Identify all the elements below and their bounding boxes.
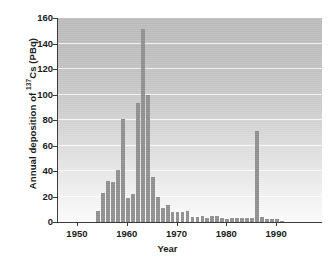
- bar: [230, 218, 234, 222]
- x-tick-mark: [276, 222, 277, 226]
- x-tick-label: 1950: [57, 228, 97, 239]
- bar: [280, 221, 284, 222]
- bar: [191, 217, 195, 222]
- gridline: [58, 43, 322, 44]
- y-tick-label: 100: [13, 89, 53, 100]
- x-tick-mark: [177, 222, 178, 226]
- bar: [205, 218, 209, 222]
- x-tick-label: 1980: [206, 228, 246, 239]
- x-tick-label: 1960: [107, 228, 147, 239]
- bar: [181, 212, 185, 222]
- y-tick-label: 120: [13, 63, 53, 74]
- bar: [215, 216, 219, 222]
- bar: [171, 212, 175, 222]
- bar: [265, 219, 269, 222]
- bar: [240, 218, 244, 222]
- x-tick-label: 1970: [157, 228, 197, 239]
- bar: [210, 216, 214, 222]
- plot-area: [57, 18, 322, 223]
- x-tick-label: 1990: [256, 228, 296, 239]
- y-tick-label: 20: [13, 191, 53, 202]
- bar: [250, 218, 254, 222]
- bar: [201, 216, 205, 222]
- y-tick-label: 0: [13, 216, 53, 227]
- bar: [270, 219, 274, 222]
- y-tick-label: 140: [13, 38, 53, 49]
- bar: [255, 131, 259, 222]
- bar: [245, 218, 249, 222]
- bar: [101, 193, 105, 222]
- bar: [126, 198, 130, 222]
- bar: [235, 218, 239, 222]
- y-tick-label: 160: [13, 12, 53, 23]
- bar: [121, 119, 125, 222]
- bar: [161, 208, 165, 222]
- x-tick-mark: [77, 222, 78, 226]
- x-tick-mark: [127, 222, 128, 226]
- bar: [106, 181, 110, 222]
- bar: [131, 194, 135, 222]
- bar: [111, 182, 115, 222]
- scan-texture: [58, 18, 322, 222]
- bar: [260, 217, 264, 222]
- bar: [151, 177, 155, 222]
- bar: [186, 211, 190, 222]
- bar: [220, 218, 224, 222]
- bar: [166, 205, 170, 222]
- y-tick-label: 80: [13, 114, 53, 125]
- bar: [116, 170, 120, 222]
- gridline: [58, 196, 322, 197]
- y-tick-label: 40: [13, 165, 53, 176]
- gridline: [58, 119, 322, 120]
- x-axis-title: Year: [0, 243, 335, 254]
- gridline: [58, 170, 322, 171]
- bar: [136, 103, 140, 222]
- gridline: [58, 94, 322, 95]
- y-tick-label: 60: [13, 140, 53, 151]
- bar: [156, 197, 160, 223]
- bar: [96, 211, 100, 222]
- gridline: [58, 145, 322, 146]
- bar: [196, 217, 200, 222]
- chart-figure: Annual deposition of 137Cs (PBq) 0204060…: [0, 0, 335, 263]
- bar: [176, 212, 180, 222]
- x-tick-mark: [226, 222, 227, 226]
- bar: [141, 29, 145, 222]
- bar: [146, 95, 150, 223]
- gridline: [58, 68, 322, 69]
